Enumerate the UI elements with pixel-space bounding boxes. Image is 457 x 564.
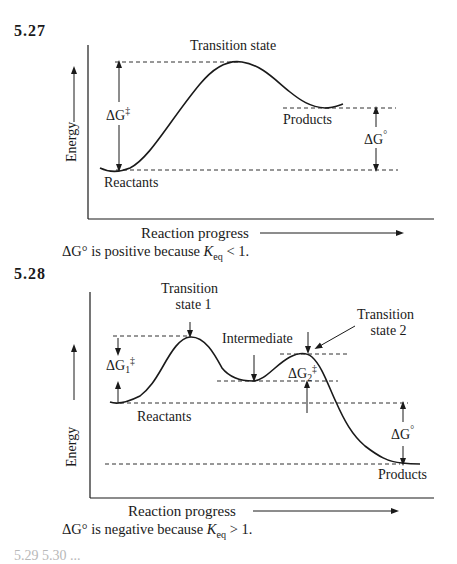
transition-state-2-label: Transition state 2 <box>357 307 414 339</box>
products-label: Products <box>378 467 427 483</box>
intermediate-label: Intermediate <box>222 331 293 347</box>
cutoff-next-problem-text: 5.29 5.30 ... <box>14 548 81 564</box>
caption-5-28: ΔG° is negative because Keq > 1. <box>62 521 252 540</box>
reaction-curve <box>110 337 420 464</box>
transition-state-1-label: Transition state 1 <box>161 281 218 313</box>
free-energy-change-label: ΔG° <box>391 424 414 443</box>
y-axis-label: Energy <box>64 427 80 467</box>
reactants-label: Reactants <box>137 409 191 425</box>
x-axis-label: Reaction progress <box>128 503 236 520</box>
activation-energy-1-label: ΔG1‡ <box>106 355 135 375</box>
activation-energy-2-label: ΔG2‡ <box>288 363 317 383</box>
